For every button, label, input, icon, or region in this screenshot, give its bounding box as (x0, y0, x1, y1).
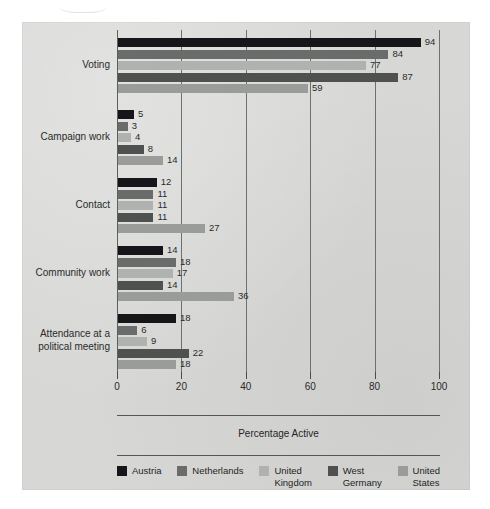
bar-row: 14 (118, 246, 439, 255)
bar (118, 246, 163, 255)
legend-label: Austria (132, 465, 162, 477)
x-tick (181, 372, 182, 379)
legend-swatch-icon (259, 466, 269, 476)
bar-value-label: 14 (167, 279, 178, 291)
bar (118, 292, 234, 301)
x-tick (310, 372, 311, 379)
bar-value-label: 22 (193, 347, 204, 359)
x-tick-label: 60 (305, 381, 316, 392)
bar-row: 3 (118, 122, 439, 131)
bar-row: 84 (118, 50, 439, 59)
bar (118, 84, 308, 93)
category-label: Community work (0, 267, 110, 280)
bar (118, 178, 157, 187)
legend-item[interactable]: WestGermany (328, 465, 382, 488)
bar-row: 11 (118, 201, 439, 210)
figure-panel: Voting9484778759Campaign work534814Conta… (22, 22, 470, 490)
legend-item[interactable]: Austria (117, 465, 162, 477)
x-tick-label: 100 (431, 381, 448, 392)
legend-item[interactable]: UnitedKingdom (259, 465, 312, 488)
bar-value-label: 18 (180, 358, 191, 370)
bar-row: 4 (118, 133, 439, 142)
bar-value-label: 36 (238, 290, 249, 302)
bar-row: 8 (118, 145, 439, 154)
bar-row: 14 (118, 281, 439, 290)
x-tick (117, 372, 118, 379)
bar (118, 269, 173, 278)
bar (118, 213, 153, 222)
x-tick (439, 372, 440, 379)
bar-value-label: 3 (132, 120, 137, 132)
bar-row: 94 (118, 38, 439, 47)
legend-label: UnitedStates (413, 465, 440, 488)
legend-item[interactable]: Netherlands (177, 465, 243, 477)
bar-row: 17 (118, 269, 439, 278)
bar-row: 59 (118, 84, 439, 93)
bar-row: 27 (118, 224, 439, 233)
bar-value-label: 77 (370, 59, 381, 71)
bar (118, 110, 134, 119)
bar-value-label: 6 (141, 324, 146, 336)
bar-row: 18 (118, 360, 439, 369)
bar-row: 22 (118, 349, 439, 358)
category-label: Campaign work (0, 131, 110, 144)
bar-row: 36 (118, 292, 439, 301)
bar-row: 18 (118, 258, 439, 267)
legend: AustriaNetherlandsUnitedKingdomWestGerma… (117, 465, 440, 488)
bar-value-label: 14 (167, 244, 178, 256)
bar-value-label: 5 (138, 108, 143, 120)
legend-swatch-icon (117, 466, 127, 476)
gridline-100 (439, 30, 440, 372)
x-tick-label: 0 (114, 381, 120, 392)
category-label: Voting (0, 59, 110, 72)
category-label: Contact (0, 199, 110, 212)
bar-row: 11 (118, 213, 439, 222)
bar-group: Attendance at apolitical meeting18692218 (118, 314, 439, 372)
bar (118, 73, 398, 82)
bar-group: Community work1418171436 (118, 246, 439, 304)
bar-row: 18 (118, 314, 439, 323)
bar-row: 11 (118, 190, 439, 199)
bar-value-label: 12 (161, 176, 172, 188)
bar (118, 224, 205, 233)
bar-value-label: 4 (135, 131, 140, 143)
bar-value-label: 8 (148, 143, 153, 155)
bar (118, 201, 153, 210)
bar-value-label: 87 (402, 71, 413, 83)
bar-row: 14 (118, 156, 439, 165)
bar (118, 314, 176, 323)
legend-label: Netherlands (192, 465, 243, 477)
bar (118, 337, 147, 346)
bar-value-label: 11 (157, 211, 167, 223)
bar-group: Voting9484778759 (118, 38, 439, 96)
bar-group: Campaign work534814 (118, 110, 439, 168)
x-tick (246, 372, 247, 379)
plot-area: Voting9484778759Campaign work534814Conta… (117, 30, 439, 372)
bar (118, 50, 388, 59)
bar-group: Contact1211111127 (118, 178, 439, 236)
x-axis: 020406080100 (117, 372, 440, 402)
bar-row: 9 (118, 337, 439, 346)
x-tick (375, 372, 376, 379)
bar-value-label: 84 (392, 48, 403, 60)
legend-item[interactable]: UnitedStates (398, 465, 440, 488)
legend-swatch-icon (328, 466, 338, 476)
bar-value-label: 14 (167, 154, 178, 166)
bar-row: 87 (118, 73, 439, 82)
legend-label: UnitedKingdom (274, 465, 312, 488)
legend-swatch-icon (177, 466, 187, 476)
x-tick-label: 20 (176, 381, 187, 392)
bar (118, 133, 131, 142)
bar-row: 12 (118, 178, 439, 187)
bar-value-label: 11 (157, 188, 167, 200)
x-tick-label: 40 (240, 381, 251, 392)
bar-value-label: 11 (157, 199, 167, 211)
bar (118, 156, 163, 165)
bar-row: 77 (118, 61, 439, 70)
bar-value-label: 18 (180, 256, 191, 268)
bar (118, 258, 176, 267)
x-axis-title: Percentage Active (117, 428, 440, 439)
bar (118, 122, 128, 131)
bar (118, 326, 137, 335)
legend-swatch-icon (398, 466, 408, 476)
